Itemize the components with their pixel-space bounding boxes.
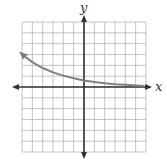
x-axis-left-arrow-icon xyxy=(12,84,19,90)
y-axis-down-arrow-icon xyxy=(81,152,87,159)
x-axis-label: x xyxy=(155,80,162,93)
x-axis-right-arrow-icon xyxy=(145,84,152,90)
y-axis-label: y xyxy=(80,1,87,14)
y-axis-up-arrow-icon xyxy=(81,15,87,22)
coordinate-plane xyxy=(0,0,167,163)
